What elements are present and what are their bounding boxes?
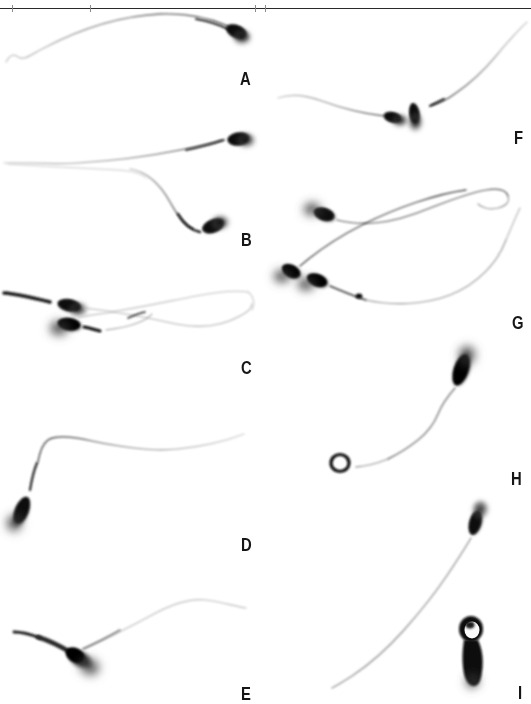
panel-label-c: C <box>241 358 251 377</box>
panel-label-g: G <box>512 313 523 332</box>
rule-tick <box>255 5 256 12</box>
rule-tick <box>12 5 13 12</box>
panel-label-h: H <box>511 469 521 488</box>
panel-label-i: I <box>518 683 522 702</box>
micrograph-canvas <box>0 0 531 704</box>
panel-label-e: E <box>241 684 251 703</box>
figure-plate: A B C D E F G H I <box>0 0 531 704</box>
rule-tick <box>265 5 266 12</box>
panel-label-b: B <box>241 230 251 249</box>
plate-background <box>0 0 531 704</box>
panel-label-d: D <box>241 535 251 554</box>
panel-label-f: F <box>514 128 523 147</box>
panel-label-a: A <box>240 69 250 88</box>
rule-tick <box>90 5 91 12</box>
